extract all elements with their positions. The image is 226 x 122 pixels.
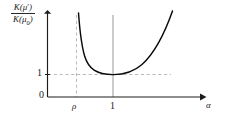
y-axis-label: K(μ′) K(μ0): [11, 3, 35, 26]
x-tick-label-one: 1: [110, 101, 115, 111]
origin-tick-label: 0: [39, 90, 44, 100]
y-tick-label-one: 1: [37, 68, 42, 78]
x-axis-label: α: [206, 101, 211, 110]
y-axis-label-numerator: K(μ′): [11, 3, 35, 14]
x-tick-label-rho: ρ: [72, 102, 76, 111]
data-curve: [79, 11, 173, 75]
y-axis-label-denominator: K(μ0): [11, 14, 35, 26]
figure-container: K(μ′) K(μ0) 0 1 ρ 1 α: [0, 0, 226, 122]
